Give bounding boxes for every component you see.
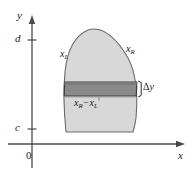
- left-curve-label-sub: L: [64, 53, 68, 60]
- y-tick-label-d: d: [15, 33, 21, 44]
- left-curve-label: xL: [60, 49, 68, 61]
- y-tick-label-c: c: [15, 122, 20, 133]
- slice-width-left-sub: R: [78, 102, 82, 109]
- slice-thickness-label: Δy: [143, 82, 154, 92]
- delta-y-bracket: [139, 81, 142, 97]
- right-curve-label: xR: [126, 44, 135, 56]
- y-axis-label: y: [17, 10, 22, 21]
- right-curve-label-sub: R: [130, 48, 134, 55]
- figure-region-between-curves: y x d c 0 xL xR xR−xL Δy: [0, 0, 196, 176]
- x-axis-arrowhead: [176, 141, 185, 147]
- slice-width-label: xR−xL: [74, 98, 98, 110]
- origin-label: 0: [26, 150, 32, 161]
- slice-width-right-sub: L: [94, 102, 98, 109]
- slice-shade-top: [65, 82, 137, 85]
- y-axis-arrowhead: [29, 15, 35, 24]
- delta-variable: y: [149, 81, 153, 92]
- x-axis-label: x: [178, 150, 183, 161]
